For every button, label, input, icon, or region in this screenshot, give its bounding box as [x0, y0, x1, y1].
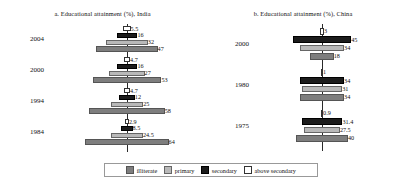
- bar-value-label: 16: [137, 32, 143, 39]
- panel-title-china: b. Educational attainment (%), China: [205, 10, 401, 17]
- legend-swatch-illiterate-icon: [126, 166, 134, 174]
- bar-value-label: 27: [145, 70, 151, 77]
- year-axis-label: 1975: [213, 122, 249, 130]
- bar-value-label: 34: [344, 44, 350, 51]
- bar-rows-india: 20045.516324720004.716275319944.71225581…: [0, 24, 205, 148]
- year-group: 19801343134: [205, 65, 401, 106]
- year-axis-label: 2000: [8, 66, 44, 74]
- bar-primary: 31: [302, 86, 342, 93]
- panel-india: a. Educational attainment (%), India 200…: [0, 0, 205, 160]
- bar-value-label: 8.5: [133, 125, 141, 132]
- year-group: 19944.7122558: [0, 86, 205, 117]
- bar-illiterate: 34: [300, 94, 344, 101]
- bar-value-label: 16: [137, 63, 143, 70]
- legend-swatch-secondary-icon: [201, 166, 209, 174]
- legend-swatch-primary-icon: [164, 166, 172, 174]
- bar-value-label: 3: [324, 28, 327, 35]
- bar-value-label: 31: [342, 85, 348, 92]
- bar-value-label: 24.5: [143, 132, 154, 139]
- bar-above-secondary: 4.7: [124, 88, 130, 93]
- bar-secondary: 34: [300, 77, 344, 84]
- bar-illiterate: 64: [85, 139, 168, 144]
- legend-label: primary: [175, 167, 195, 174]
- bar-value-label: 18: [334, 53, 340, 60]
- bar-value-label: 32: [148, 39, 154, 46]
- year-group: 20004.7162753: [0, 55, 205, 86]
- panel-china: b. Educational attainment (%), China 200…: [205, 0, 401, 160]
- legend-label: above secondary: [254, 167, 295, 174]
- bar-primary: 32: [106, 40, 148, 45]
- bar-illiterate: 47: [96, 46, 157, 51]
- bar-value-label: 34: [344, 94, 350, 101]
- legend-label: illiterate: [137, 167, 158, 174]
- bar-above-secondary: 4.7: [124, 57, 130, 62]
- bar-above-secondary: 2.9: [125, 119, 129, 124]
- year-axis-label: 1984: [8, 128, 44, 136]
- bar-value-label: 64: [169, 138, 175, 145]
- educational-attainment-figure: a. Educational attainment (%), India 200…: [0, 0, 401, 188]
- bar-above-secondary: 3: [320, 28, 324, 35]
- bar-primary: 27.5: [304, 127, 340, 134]
- year-axis-label: 2004: [8, 35, 44, 43]
- bar-above-secondary: 0.9: [321, 110, 323, 117]
- bar-illiterate: 53: [93, 77, 162, 82]
- bar-illiterate: 18: [310, 53, 333, 60]
- year-axis-label: 2000: [213, 40, 249, 48]
- bar-illiterate: 40: [296, 135, 348, 142]
- bar-secondary: 12: [119, 95, 135, 100]
- legend-label: secondary: [212, 167, 237, 174]
- bar-primary: 24.5: [111, 133, 143, 138]
- bar-primary: 27: [109, 71, 144, 76]
- bar-value-label: 45: [351, 36, 357, 43]
- bar-value-label: 53: [161, 76, 167, 83]
- bar-value-label: 1: [323, 69, 326, 76]
- bar-value-label: 31.4: [342, 118, 353, 125]
- bar-secondary: 8.5: [121, 126, 132, 131]
- legend: illiterateprimarysecondaryabove secondar…: [104, 163, 318, 177]
- year-group: 19750.931.427.540: [205, 106, 401, 147]
- bar-value-label: 58: [165, 107, 171, 114]
- legend-item-primary: primary: [164, 166, 194, 174]
- year-axis-label: 1994: [8, 97, 44, 105]
- year-group: 20003453418: [205, 24, 401, 65]
- bar-value-label: 25: [143, 101, 149, 108]
- bar-rows-china: 200034534181980134313419750.931.427.540: [205, 24, 401, 147]
- year-axis-label: 1980: [213, 81, 249, 89]
- bar-secondary: 45: [293, 36, 352, 43]
- bar-above-secondary: 1: [321, 69, 323, 76]
- bar-value-label: 47: [158, 45, 164, 52]
- bar-value-label: 27.5: [340, 126, 351, 133]
- legend-item-above-secondary: above secondary: [244, 166, 296, 174]
- bar-primary: 25: [111, 102, 144, 107]
- panel-title-india: a. Educational attainment (%), India: [0, 10, 205, 17]
- legend-item-secondary: secondary: [201, 166, 237, 174]
- bar-secondary: 16: [117, 64, 138, 69]
- bar-illiterate: 58: [89, 108, 164, 113]
- bar-value-label: 0.9: [323, 110, 331, 117]
- year-group: 19842.98.524.564: [0, 117, 205, 148]
- bar-secondary: 31.4: [302, 118, 343, 125]
- bar-value-label: 34: [344, 77, 350, 84]
- bar-above-secondary: 5.5: [123, 26, 130, 31]
- legend-item-illiterate: illiterate: [126, 166, 157, 174]
- legend-swatch-above-secondary-icon: [244, 166, 252, 174]
- bar-secondary: 16: [117, 33, 138, 38]
- year-group: 20045.5163247: [0, 24, 205, 55]
- bar-value-label: 40: [348, 135, 354, 142]
- bar-primary: 34: [300, 45, 344, 52]
- bar-value-label: 12: [135, 94, 141, 101]
